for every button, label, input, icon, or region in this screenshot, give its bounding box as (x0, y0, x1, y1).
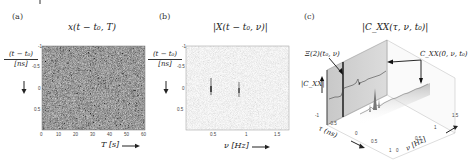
panel-c-xi-annotation: Ξ(2)(t₀, ν) (305, 50, 340, 58)
panel-a-xtick: 20 (73, 132, 78, 137)
panel-b-title: |X(t − t₀, ν)| (213, 22, 268, 32)
panel-c-nu-tick: 1 (434, 125, 437, 130)
panel-a-xtick: 50 (124, 132, 129, 137)
panel-a-label: (a) (12, 12, 23, 21)
panel-c-tau-tick: -1 (315, 113, 319, 118)
panel-a-title: x(t − t₀, T) (68, 22, 116, 32)
panel-b-ylabel-num: (t − t₀) (148, 50, 182, 60)
panel-b-xtick: 1 (245, 132, 248, 137)
panel-c-nu-tick: 0 (396, 148, 399, 153)
panel-b-ytick: -0.5 (177, 64, 185, 69)
panel-b-ytick: 0.5 (177, 107, 183, 112)
panel-a-ytick: 0.5 (34, 107, 40, 112)
panel-b-ytick: 0 (182, 86, 185, 91)
panel-b-label: (b) (159, 12, 170, 21)
panel-c-zlabel: |C_XX| (301, 80, 325, 88)
panel-c-title: |C_XX(τ, ν, t₀)| (362, 22, 428, 32)
panel-c-nu-tick: 1.5 (452, 113, 458, 118)
panel-c-tau-tick: 0.5 (371, 139, 377, 144)
panel-b-ytick: -1 (182, 44, 186, 49)
panel-b-xlabel: ν [Hz] (224, 141, 249, 150)
panel-a-xtick: 0 (40, 132, 43, 137)
panel-a-ytick: -0.5 (32, 64, 40, 69)
panel-a-xtick: 10 (56, 132, 61, 137)
panel-a-xtick: 60 (141, 132, 146, 137)
panel-c-tau-tick: -0.5 (329, 121, 337, 126)
panel-b-xtick: 1.5 (274, 132, 280, 137)
panel-a-xtick: 40 (107, 132, 112, 137)
panel-b-plot (164, 46, 290, 149)
panel-c-tau-tick: 0 (355, 131, 358, 136)
panel-a-xtick: 30 (90, 132, 95, 137)
panel-c-tau-tick: 1 (389, 148, 392, 153)
panel-a-ylabel-num: (t − t₀) (4, 50, 38, 60)
panel-a-ytick: -1 (38, 44, 42, 49)
panel-c-c0-annotation: C_XX(0, ν, t₀) (420, 50, 468, 58)
panel-b-xtick: 0.5 (210, 132, 216, 137)
panel-a-ytick: 0 (38, 86, 41, 91)
panel-c-label: (c) (304, 12, 315, 21)
panel-a-xlabel: T [s] (101, 140, 119, 149)
